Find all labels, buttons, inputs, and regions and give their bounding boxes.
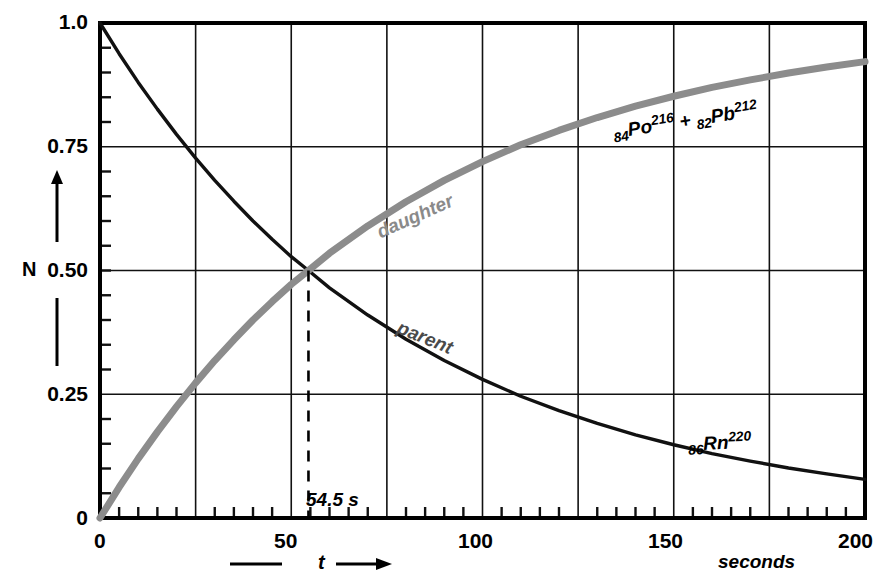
daughter-symbol1: Po xyxy=(626,116,653,141)
x-axis-unit-label: seconds xyxy=(718,551,795,573)
x-tick-label-50: 50 xyxy=(274,529,297,553)
x-axis-arrow-right xyxy=(336,554,400,574)
daughter-a2: 212 xyxy=(733,97,758,115)
parent-species-label: 86Rn220 xyxy=(687,428,752,457)
x-tick-label-200: 200 xyxy=(838,529,873,553)
daughter-a1: 216 xyxy=(650,110,675,128)
chart-plot-area xyxy=(0,0,891,584)
y-axis-title: N xyxy=(22,258,36,281)
parent-z: 86 xyxy=(688,442,704,458)
x-tick-label-150: 150 xyxy=(648,529,683,553)
half-life-annotation: 54.5 s xyxy=(306,489,359,511)
x-tick-label-0: 0 xyxy=(94,529,106,553)
y-tick-label-1: 1.0 xyxy=(18,10,88,34)
x-tick-label-100: 100 xyxy=(458,529,493,553)
plus-sign: + xyxy=(678,109,692,131)
y-tick-label-075: 0.75 xyxy=(18,134,88,158)
y-axis-arrow-and-rule xyxy=(44,170,70,400)
parent-symbol: Rn xyxy=(703,432,729,454)
decay-curve-figure: 1.0 0.75 0.50 0.25 0 0 50 100 150 200 N … xyxy=(0,0,891,584)
y-tick-label-0: 0 xyxy=(18,506,88,530)
parent-a: 220 xyxy=(728,428,752,444)
x-axis-arrow-left-rule xyxy=(230,554,350,574)
